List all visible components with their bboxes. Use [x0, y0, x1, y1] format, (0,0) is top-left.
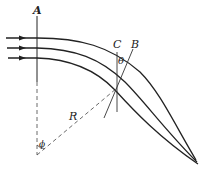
- label-r: R: [68, 110, 77, 123]
- arrow-icon: [19, 36, 26, 41]
- arrow-icon: [19, 46, 26, 51]
- label-c: C: [113, 38, 122, 51]
- label-phi: ϕ: [39, 139, 45, 149]
- arrow-icon: [19, 56, 26, 61]
- label-b: B: [130, 38, 139, 51]
- label-theta: θ: [118, 55, 124, 66]
- ray-middle: [7, 48, 197, 162]
- diagram-canvas: A C B θ R ϕ: [0, 0, 206, 170]
- arrow-heads: [19, 36, 26, 61]
- label-a: A: [32, 4, 42, 17]
